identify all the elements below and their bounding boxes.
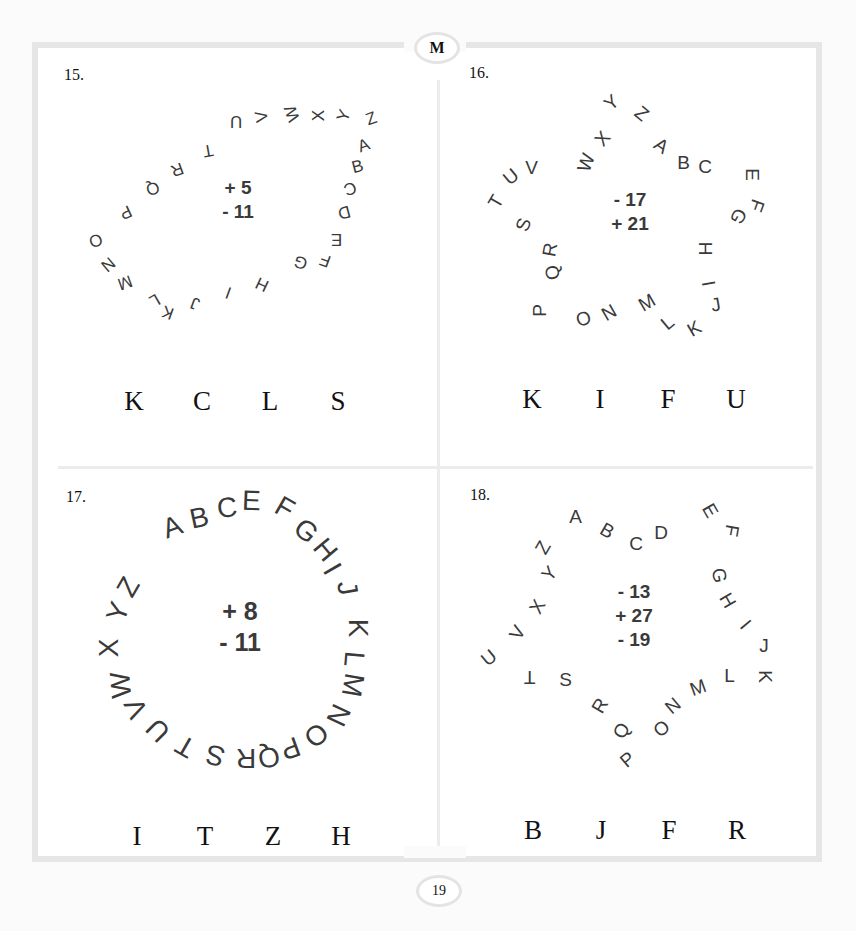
ring-letter: C [698,157,712,176]
ring-letter: C [216,493,239,523]
puzzle-18: 18. ABCDEFGHIJKLMNOPQRSTUVXYZ - 13 + 27 … [0,0,400,400]
answer-choice[interactable]: K [498,384,566,415]
operation: - 13 [596,580,672,604]
ring-letter: Q [542,263,563,281]
operation: + 21 [592,212,668,236]
section-badge: M [414,32,460,64]
answer-choice[interactable]: H [307,821,375,852]
answer-choice[interactable]: I [103,821,171,852]
ring-letter: H [697,241,716,255]
vertical-divider [437,80,440,858]
answer-choices: K I F U [498,384,770,415]
ring-letter: L [724,666,735,685]
answer-choices: B J F R [499,815,771,846]
answer-choice[interactable]: F [635,815,703,846]
ring-letter: L [339,650,368,668]
operations: - 13 + 27 - 19 [596,580,672,651]
answer-choice[interactable]: R [703,815,771,846]
ring-letter: W [106,671,136,700]
operations: + 8 - 11 [200,596,280,659]
ring-letter: E [743,168,762,181]
ring-letter: R [540,241,561,258]
answer-choice[interactable]: T [171,821,239,852]
horizontal-divider [58,466,813,469]
ring-letter: M [337,671,369,699]
operation: - 17 [592,188,668,212]
ring-letter: G [709,566,730,584]
ring-letter: V [525,158,538,177]
answer-choice[interactable]: U [702,384,770,415]
puzzle-number: 16. [469,64,489,82]
ring-letter: R [236,744,256,772]
operation: + 8 [200,596,280,627]
ring-letter: B [677,153,690,172]
frame-gap-bottom [404,846,466,858]
operations: - 17 + 21 [592,188,668,236]
ring-letter: P [530,304,549,317]
answer-choice[interactable]: F [634,384,702,415]
answer-choice[interactable]: J [567,815,635,846]
ring-letter: A [569,507,582,526]
ring-letter: D [654,523,668,542]
page-number: 19 [416,875,462,907]
answer-choice[interactable]: I [566,384,634,415]
operation: + 27 [596,604,672,628]
ring-letter: J [759,636,769,655]
ring-letter: S [559,670,572,689]
operation: - 19 [596,628,672,652]
puzzle-number: 18. [470,486,490,504]
ring-letter: C [629,534,643,553]
answer-choice[interactable]: B [499,815,567,846]
answer-choices: I T Z H [103,821,375,852]
answer-choice[interactable]: Z [239,821,307,852]
ring-letter: E [242,487,262,516]
ring-letter: K [756,670,775,683]
ring-letter: K [345,619,373,638]
operation: - 11 [200,627,280,658]
puzzle-number: 17. [66,488,86,506]
ring-letter: T [524,668,536,687]
ring-letter: X [96,639,124,658]
